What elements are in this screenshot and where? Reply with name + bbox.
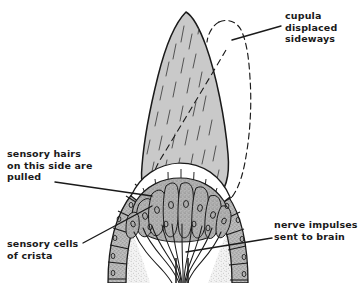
label-sensory-cells: sensory cells of crista — [7, 238, 78, 261]
label-sensory-hairs: sensory hairs on this side are pulled — [7, 148, 93, 183]
label-cupula-displaced: cupula displaced sideways — [285, 10, 358, 45]
label-nerve-impulses: nerve impulses sent to brain — [274, 219, 358, 242]
diagram-canvas: cupula displaced sideways sensory hairs … — [0, 0, 358, 283]
